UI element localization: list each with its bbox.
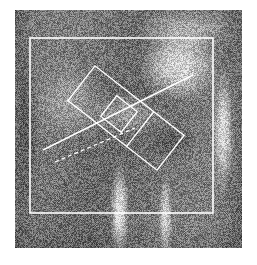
screenshot-root [0,0,257,265]
radiograph-image [15,10,242,248]
